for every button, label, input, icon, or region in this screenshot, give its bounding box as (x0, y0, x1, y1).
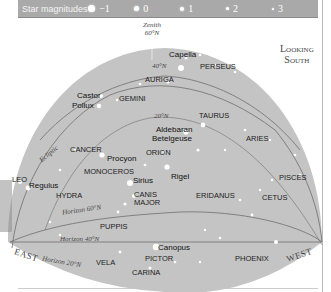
latitude-40n-label: 40°N (152, 62, 166, 70)
constellation-monoceros: MONOCEROS (84, 167, 134, 176)
constellation-canis-major: CANISMAJOR (134, 191, 160, 207)
constellation-phoenix: PHOENIX (235, 254, 269, 263)
star-label-rigel: Rigel (171, 172, 189, 181)
constellation-carina: CARINA (132, 268, 160, 277)
constellation-cetus: CETUS (262, 193, 287, 202)
star-label-canopus: Canopus (158, 243, 190, 252)
constellation-aries: ARIES (246, 134, 269, 143)
star-label-regulus: Regulus (29, 181, 58, 190)
constellation-eridanus: ERIDANUS (196, 191, 235, 200)
looking-south-label: LookingSouth (280, 43, 314, 65)
star-label-procyon: Procyon (107, 154, 136, 163)
star-label-pollux: Pollux (72, 101, 94, 110)
star-label-sirius: Sirius (133, 176, 153, 185)
constellation-hydra: HYDRA (56, 191, 82, 200)
constellation-gemini: GEMINI (119, 94, 146, 103)
constellation-leo: LEO (12, 175, 27, 184)
constellation-perseus: PERSEUS (200, 62, 236, 71)
zenith-label: Zenith60°N (143, 21, 161, 37)
constellation-cancer: CANCER (70, 145, 102, 154)
star-label-capella: Capella (169, 50, 196, 59)
constellation-pisces: PISCES (279, 173, 307, 182)
constellation-vela: VELA (96, 258, 115, 267)
star-label-castor: Castor (77, 91, 101, 100)
constellation-auriga: AURIGA (145, 75, 174, 84)
constellation-puppis: PUPPIS (100, 222, 128, 231)
horizon-40n-label: Horizon 40°N (60, 235, 99, 243)
star-label-betelgeuse: Betelgeuse (152, 134, 192, 143)
latitude-20n-label: 20°N (154, 112, 168, 120)
constellation-pictor: PICTOR (145, 254, 173, 263)
constellation-orion: ORION (146, 148, 171, 157)
star-label-aldebaran: Aldebaran (156, 125, 192, 134)
constellation-taurus: TAURUS (199, 111, 229, 120)
